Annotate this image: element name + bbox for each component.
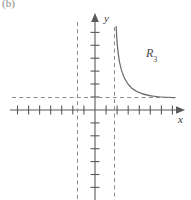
x-axis-label: x — [178, 113, 183, 125]
figure-panel: (b) — [0, 0, 191, 200]
region-label-subscript: 3 — [153, 55, 157, 64]
y-axis-label: y — [104, 12, 109, 24]
coordinate-plot — [0, 0, 191, 200]
y-axis-arrow-icon — [91, 13, 99, 22]
region-label: R3 — [146, 46, 157, 62]
